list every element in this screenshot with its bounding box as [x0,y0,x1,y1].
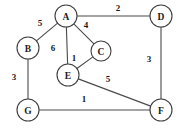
node-label-c: C [98,47,105,57]
node-label-a: A [63,12,70,22]
graph-canvas: ABCDEFG 524613351 [0,0,185,132]
edge-weight-a-c: 4 [84,20,89,30]
edge-weight-c-e: 1 [72,53,77,63]
graph-edge-c-e [77,57,93,69]
edge-weight-b-g: 3 [12,72,17,82]
graph-node-e: E [57,64,79,86]
graph-node-b: B [17,37,39,59]
edges-layer [28,16,161,110]
edge-weight-e-f: 5 [106,74,111,84]
edge-weight-g-f: 1 [82,94,87,104]
node-label-b: B [25,44,32,54]
graph-node-f: F [150,99,172,121]
node-label-d: D [158,12,165,22]
graph-node-c: C [91,41,111,61]
graph-edge-e-f [78,79,150,106]
graph-node-g: G [17,99,39,121]
node-label-g: G [24,106,32,116]
node-label-f: F [158,106,164,116]
edge-weight-a-e: 6 [51,43,56,53]
graph-edge-a-e [66,27,67,64]
weighted-graph-diagram: ABCDEFG 524613351 [0,0,185,132]
edge-weight-a-b: 5 [38,18,43,28]
edge-weight-a-d: 2 [116,3,121,13]
graph-node-a: A [55,5,77,27]
node-label-e: E [65,71,71,81]
graph-node-d: D [150,5,172,27]
edge-weight-d-f: 3 [147,54,152,64]
